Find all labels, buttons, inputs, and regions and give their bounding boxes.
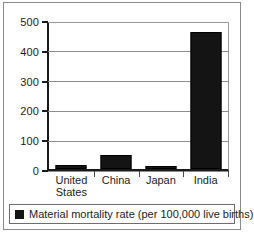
y-axis-tick-label: 200 xyxy=(20,106,39,117)
x-axis-label-line: Japan xyxy=(139,174,184,186)
bar-slot xyxy=(94,22,139,169)
x-axis-label-line: China xyxy=(94,174,139,186)
bar xyxy=(101,155,132,169)
y-axis-tick xyxy=(42,140,48,142)
bar-series xyxy=(49,22,228,169)
y-axis-tick-label: 100 xyxy=(20,136,39,147)
x-axis-label: UnitedStates xyxy=(49,174,94,198)
y-axis-tick-label: 0 xyxy=(33,166,39,177)
bar-slot xyxy=(139,22,184,169)
y-axis-tick-label: 300 xyxy=(20,76,39,87)
bar xyxy=(56,165,87,169)
plot-area: 0100200300400500 xyxy=(47,22,229,171)
x-axis-tick xyxy=(228,171,229,177)
bar xyxy=(190,32,221,169)
x-axis-label-line: States xyxy=(49,186,94,198)
bar-slot xyxy=(183,22,228,169)
y-axis-tick-label: 400 xyxy=(20,46,39,57)
x-axis-label: India xyxy=(183,174,228,186)
y-axis-tick xyxy=(42,51,48,53)
bar xyxy=(145,166,176,169)
y-axis-tick xyxy=(42,110,48,112)
chart-figure: 0100200300400500 UnitedStatesChinaJapanI… xyxy=(3,2,241,230)
x-axis-label-line: United xyxy=(49,174,94,186)
bar-slot xyxy=(49,22,94,169)
x-axis-label: Japan xyxy=(139,174,184,186)
y-axis-tick xyxy=(42,21,48,23)
y-axis-tick xyxy=(42,81,48,83)
x-axis-label: China xyxy=(94,174,139,186)
legend-label: Material mortality rate (per 100,000 liv… xyxy=(29,209,245,220)
y-axis-tick-label: 500 xyxy=(20,17,39,28)
chart-legend: Material mortality rate (per 100,000 liv… xyxy=(9,204,235,224)
x-axis-label-line: India xyxy=(183,174,228,186)
y-axis-tick xyxy=(42,170,48,172)
legend-swatch-icon xyxy=(15,210,24,219)
